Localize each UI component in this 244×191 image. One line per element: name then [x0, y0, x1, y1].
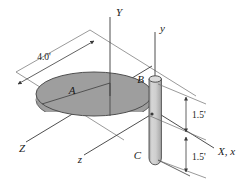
ext-line-bottom — [160, 161, 206, 178]
axis-z-label: z — [77, 153, 83, 165]
plane-edge-top-left — [16, 30, 90, 72]
point-b-label: B — [137, 73, 144, 85]
dimension-lower-label: 1.5' — [192, 152, 206, 162]
rod-body — [149, 79, 161, 165]
rod-top-cap — [149, 76, 161, 82]
figure-container: Z z X, x A — [0, 0, 244, 191]
point-c-label: C — [134, 149, 142, 161]
dimension-upper: 1.5' — [186, 97, 206, 132]
axis-Y-label: Y — [116, 6, 124, 18]
dimension-lower: 1.5' — [186, 137, 206, 172]
axis-Z-label: Z — [19, 142, 26, 154]
mechanics-diagram: Z z X, x A — [0, 0, 244, 191]
axis-y-label: y — [159, 22, 165, 34]
dimension-diameter-label: 4.0' — [37, 52, 51, 62]
axis-X-label: X, x — [217, 145, 235, 157]
disk-top-face — [36, 72, 152, 116]
point-a-label: A — [68, 84, 76, 96]
axis-z-line — [84, 114, 152, 155]
dimension-upper-label: 1.5' — [192, 110, 206, 120]
rod-disk-intersection — [150, 112, 153, 115]
disk-a: A — [36, 72, 152, 122]
